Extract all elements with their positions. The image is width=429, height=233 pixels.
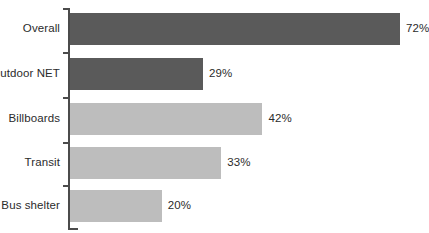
y-axis-tick xyxy=(63,97,69,99)
y-axis-tick xyxy=(63,52,69,54)
category-label-billboards: Billboards xyxy=(9,112,61,124)
value-label-outdoor-net: 29% xyxy=(209,67,232,79)
bar-row: Transit 33% xyxy=(0,147,427,179)
bar-row: Billboards 42% xyxy=(0,103,427,135)
category-label-transit: Transit xyxy=(25,156,60,168)
y-axis-tick xyxy=(63,185,69,187)
category-label-overall: Overall xyxy=(23,22,60,34)
bar-row: Bus shelter 20% xyxy=(0,190,427,222)
value-label-bus-shelter: 20% xyxy=(168,199,191,211)
bar-bus-shelter xyxy=(70,190,162,222)
bar-row: Overall 72% xyxy=(0,13,427,45)
value-label-overall: 72% xyxy=(406,22,429,34)
y-axis-foot xyxy=(68,228,78,230)
y-axis-tick xyxy=(63,142,69,144)
bar-row: Outdoor NET 29% xyxy=(0,58,427,90)
bar-transit xyxy=(70,147,221,179)
category-label-bus-shelter: Bus shelter xyxy=(1,199,60,211)
bar-outdoor-net xyxy=(70,58,203,90)
value-label-transit: 33% xyxy=(227,156,250,168)
bar-billboards xyxy=(70,103,262,135)
y-axis-tick xyxy=(63,8,69,10)
bar-overall xyxy=(70,13,400,45)
category-label-outdoor-net: Outdoor NET xyxy=(0,67,60,79)
value-label-billboards: 42% xyxy=(268,112,291,124)
